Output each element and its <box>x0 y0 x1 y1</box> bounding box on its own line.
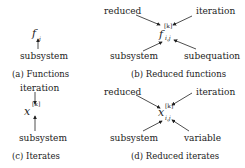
symbol-sub: i,j <box>165 114 171 121</box>
symbol-base: f <box>32 28 36 39</box>
label-subsystem: subsystem <box>20 52 68 61</box>
caption: (d) Reduced iterates <box>131 152 219 161</box>
label-subsystem: subsystem <box>110 134 158 143</box>
symbol-sup: [k] <box>32 100 40 107</box>
caption: (c) Iterates <box>12 152 60 161</box>
caption: (a) Functions <box>12 70 69 79</box>
label-subequation: subequation <box>184 52 240 61</box>
label-reduced: reduced <box>104 88 141 97</box>
symbol-sub: i,j <box>165 34 171 41</box>
symbol-base: x <box>158 107 164 118</box>
label-reduced: reduced <box>104 7 141 16</box>
label-iteration: iteration <box>20 84 59 93</box>
label-iteration: iteration <box>196 7 235 16</box>
symbol-base: x <box>24 106 30 117</box>
label-iteration: iteration <box>196 88 235 97</box>
symbol-sup: [k] <box>164 22 172 29</box>
label-subsystem: subsystem <box>19 134 67 143</box>
symbol-base: f <box>159 29 163 40</box>
label-variable: variable <box>184 134 221 143</box>
symbol-sub: i <box>39 35 41 42</box>
caption: (b) Reduced functions <box>131 70 226 79</box>
symbol-sup: [k] <box>165 102 173 109</box>
label-subsystem: subsystem <box>110 52 158 61</box>
